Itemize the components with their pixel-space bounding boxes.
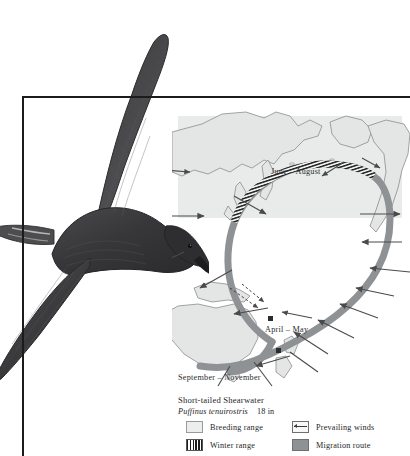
legend-item-migration-route: Migration route (292, 439, 404, 451)
species-common-name: Short-tailed Shearwater (178, 395, 408, 406)
far-wingtip (0, 225, 54, 244)
season-label-june-august: June – August (271, 167, 321, 176)
legend-label-migration-route: Migration route (316, 441, 371, 450)
season-label-september-november: September – November (178, 373, 261, 382)
species-detail-row: Puffinus tenuirostris 18 in (178, 406, 408, 417)
upper-wing (98, 35, 168, 218)
species-size: 18 in (257, 406, 274, 417)
frame-left-rule (22, 96, 24, 456)
legend-item-winter-range: Winter range (186, 439, 292, 451)
field-guide-plate: June – August April – May September – No… (0, 0, 410, 456)
migration-map (172, 110, 410, 390)
legend-item-prevailing-winds: Prevailing winds (292, 421, 404, 433)
species-scientific-name: Puffinus tenuirostris (178, 406, 248, 417)
lower-wing (0, 258, 90, 381)
legend-label-winter-range: Winter range (210, 441, 255, 450)
migration-route-swatch-icon (292, 439, 309, 451)
breeding-range-swatch-icon (186, 421, 203, 433)
map-legend: Breeding range Prevailing winds Winter r… (186, 418, 404, 454)
new-guinea-landmass (194, 282, 250, 302)
species-caption: Short-tailed Shearwater Puffinus tenuiro… (178, 395, 408, 417)
legend-label-prevailing-winds: Prevailing winds (316, 423, 374, 432)
legend-item-breeding-range: Breeding range (186, 421, 292, 433)
winter-range-swatch-icon (186, 439, 203, 451)
season-label-april-may: April – May (265, 325, 308, 334)
legend-label-breeding-range: Breeding range (210, 423, 263, 432)
prevailing-winds-swatch-icon (292, 421, 309, 433)
frame-top-rule (22, 96, 410, 98)
